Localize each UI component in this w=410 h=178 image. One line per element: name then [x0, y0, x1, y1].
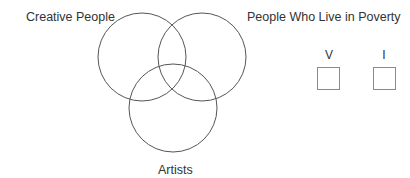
answer-box-v[interactable] [317, 67, 340, 90]
answer-box-i[interactable] [373, 67, 396, 90]
poverty-circle [158, 13, 246, 101]
artists-circle [129, 64, 217, 152]
venn-diagram [0, 0, 410, 178]
answer-label-i: I [374, 49, 394, 61]
answer-label-v: V [319, 49, 339, 61]
creative-people-circle [98, 13, 186, 101]
